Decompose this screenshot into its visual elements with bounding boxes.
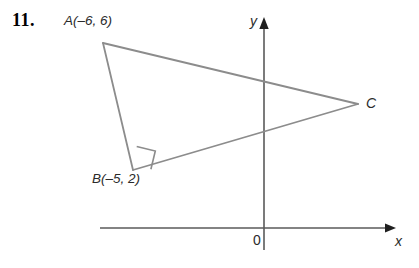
problem-number: 11. <box>12 11 35 29</box>
vertex-label-b-text: B(–5, 2) <box>92 171 140 186</box>
side-bc <box>133 104 358 170</box>
origin-label: 0 <box>253 233 261 247</box>
vertex-label-c: C <box>366 96 376 110</box>
y-axis-arrowhead <box>259 17 268 29</box>
side-ac <box>103 43 358 104</box>
x-axis-label: x <box>395 234 402 248</box>
geometry-figure: 11. A(–6, 6) B(–5, 2) C y x 0 <box>0 0 419 268</box>
figure-canvas <box>0 0 419 268</box>
vertex-label-b: B(–5, 2) <box>92 172 140 186</box>
x-axis-arrowhead <box>385 224 396 233</box>
vertex-label-a-text: A(–6, 6) <box>64 13 112 28</box>
side-ab <box>103 43 133 170</box>
vertex-label-a: A(–6, 6) <box>64 14 112 28</box>
y-axis-label: y <box>250 14 257 28</box>
